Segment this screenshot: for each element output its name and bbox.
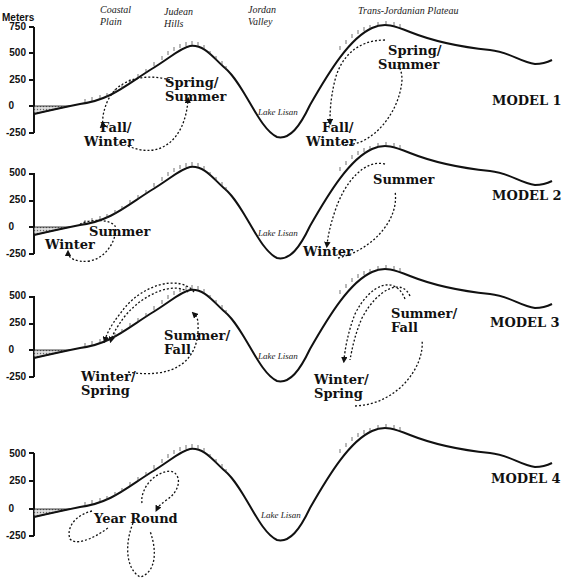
season-line: Spring/ xyxy=(165,76,226,90)
region-label-line: Valley xyxy=(248,16,276,28)
tick-label: 0 xyxy=(0,221,14,232)
model-3-label: MODEL 3 xyxy=(490,315,560,330)
season-line: Fall xyxy=(164,343,230,357)
tick-label: 0 xyxy=(0,100,14,111)
season-line: Summer/ xyxy=(164,329,230,343)
tick-label: -250 xyxy=(0,248,26,259)
season-line: Winter/ xyxy=(314,373,369,387)
region-label-line: Coastal xyxy=(100,4,131,16)
season-label: Fall/ Winter xyxy=(84,121,134,149)
region-jordan-valley: Jordan Valley xyxy=(248,4,276,28)
region-label-line: Judean xyxy=(164,6,193,18)
lake-lisan-label: Lake Lisan xyxy=(258,228,298,238)
season-label: Year Round xyxy=(94,512,178,526)
season-label: Summer xyxy=(373,173,434,187)
season-label: Summer xyxy=(89,225,150,239)
tick-label: 500 xyxy=(0,167,26,178)
model-4-label: MODEL 4 xyxy=(491,471,561,486)
tick-label: 0 xyxy=(0,344,14,355)
season-line: Fall/ xyxy=(306,121,356,135)
season-line: Summer xyxy=(378,58,442,72)
season-label: Winter xyxy=(45,238,95,252)
lake-lisan-label: Lake Lisan xyxy=(261,510,301,520)
region-trans-jordanian-plateau: Trans-Jordanian Plateau xyxy=(358,5,458,17)
tick-label: -250 xyxy=(0,127,26,138)
region-judean-hills: Judean Hills xyxy=(164,6,193,30)
season-line: Fall/ xyxy=(84,121,134,135)
tick-label: 500 xyxy=(0,290,26,301)
lake-lisan-label: Lake Lisan xyxy=(258,351,298,361)
tick-label: 250 xyxy=(0,194,26,205)
tick-label: 500 xyxy=(0,47,26,58)
season-label: Winter/ Spring xyxy=(81,370,136,398)
tick-label: -250 xyxy=(0,371,26,382)
season-label: Summer/ Fall xyxy=(391,307,457,335)
season-line: Winter xyxy=(306,135,356,149)
season-line: Spring xyxy=(314,387,369,401)
model-2-profile xyxy=(29,142,552,261)
tick-label: 500 xyxy=(0,448,26,459)
tick-label: -250 xyxy=(0,530,26,541)
season-label: Summer/ Fall xyxy=(164,329,230,357)
model-1-label: MODEL 1 xyxy=(492,93,562,108)
tick-label: 250 xyxy=(0,74,26,85)
region-label-line: Jordan xyxy=(248,4,276,16)
season-label: Spring/ Summer xyxy=(165,76,226,104)
region-label-line: Hills xyxy=(164,18,193,30)
model-2-label: MODEL 2 xyxy=(492,188,562,203)
tick-label: 250 xyxy=(0,475,26,486)
season-line: Spring/ xyxy=(378,44,442,58)
season-label: Winter/ Spring xyxy=(314,373,369,401)
tick-label: 250 xyxy=(0,317,26,328)
season-label: Fall/ Winter xyxy=(306,121,356,149)
region-coastal-plain: Coastal Plain xyxy=(100,4,131,28)
tick-label: 0 xyxy=(0,503,14,514)
season-line: Winter xyxy=(84,135,134,149)
season-line: Summer/ xyxy=(391,307,457,321)
season-line: Summer xyxy=(165,90,226,104)
season-line: Spring xyxy=(81,384,136,398)
region-label-line: Plain xyxy=(100,16,131,28)
tick-label: 750 xyxy=(0,21,26,32)
season-label: Winter xyxy=(303,245,353,259)
season-line: Fall xyxy=(391,321,457,335)
lake-lisan-label: Lake Lisan xyxy=(258,107,298,117)
season-line: Winter/ xyxy=(81,370,136,384)
season-label: Spring/ Summer xyxy=(378,44,442,72)
model-4-profile xyxy=(29,424,552,577)
